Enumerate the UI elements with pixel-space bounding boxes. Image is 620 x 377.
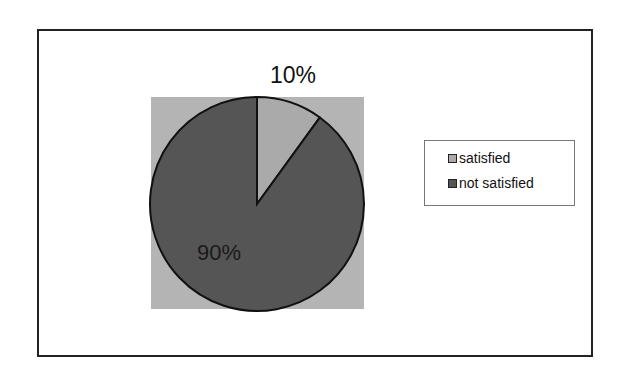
- legend-item-not-satisfied: not satisfied: [448, 175, 534, 191]
- pie-slice-not-satisfied: [150, 97, 364, 311]
- legend-swatch-icon: [448, 179, 457, 188]
- legend-swatch-icon: [448, 154, 457, 163]
- legend-label: satisfied: [459, 150, 510, 166]
- legend: satisfied not satisfied: [424, 140, 575, 206]
- data-label-not-satisfied: 90%: [197, 240, 241, 266]
- legend-label: not satisfied: [459, 175, 534, 191]
- data-label-satisfied: 10%: [270, 62, 316, 89]
- legend-item-satisfied: satisfied: [448, 150, 510, 166]
